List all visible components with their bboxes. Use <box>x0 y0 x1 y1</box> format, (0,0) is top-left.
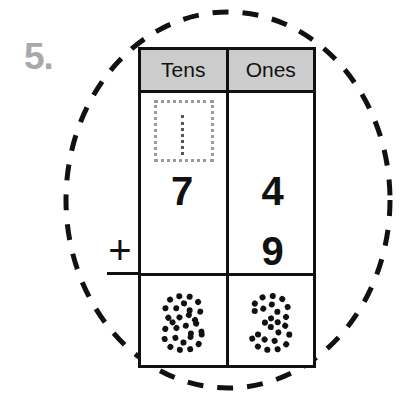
column-header-ones: Ones <box>229 50 314 90</box>
answer-tens-digit: 8 <box>162 283 204 361</box>
place-value-table: Tens Ones 1 7 4 9 8 <box>138 47 316 368</box>
sum-line-extension <box>107 272 141 275</box>
carry-box[interactable]: 1 <box>154 100 214 162</box>
ones-column-addends: 4 9 <box>229 93 314 273</box>
addend1-tens-digit: 7 <box>171 171 193 211</box>
addend1-ones-digit: 4 <box>262 171 284 211</box>
answer-row: 8 3 <box>141 276 313 368</box>
answer-ones-cell[interactable]: 3 <box>229 276 314 368</box>
answer-tens-cell[interactable]: 8 <box>141 276 229 368</box>
addend2-ones-digit: 9 <box>262 231 284 271</box>
answer-ones-digit: 3 <box>250 283 292 361</box>
table-header-row: Tens Ones <box>141 50 313 93</box>
answer-tens-trace-digit: 8 <box>150 283 216 361</box>
column-header-tens: Tens <box>141 50 229 90</box>
problem-number: 5. <box>24 38 53 75</box>
worksheet-page: 5. + Tens Ones 1 7 4 9 <box>0 0 418 396</box>
tens-column-addends: 1 7 <box>141 93 229 273</box>
carry-digit-trace <box>181 115 187 155</box>
plus-sign: + <box>104 232 136 268</box>
answer-ones-trace-digit: 3 <box>238 283 304 361</box>
addends-section: 1 7 4 9 <box>141 93 313 276</box>
